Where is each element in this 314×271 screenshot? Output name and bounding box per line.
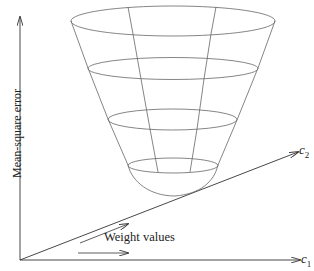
c1-axis-label: c1 [301, 251, 311, 269]
y-axis-label: Mean-square error [10, 79, 25, 189]
c2-subscript: 2 [305, 150, 310, 160]
c1-subscript: 1 [307, 259, 312, 269]
bowl-left-edge [71, 21, 175, 196]
weight-values-label: Weight values [104, 230, 175, 245]
meridian-left [128, 7, 158, 172]
contour-4 [128, 158, 218, 173]
contour-1 [71, 6, 275, 36]
error-bowl [71, 6, 275, 196]
axes [20, 17, 300, 260]
contour-3 [108, 109, 237, 130]
meridian-right [190, 7, 216, 172]
c2-axis-label: c2 [299, 142, 309, 160]
contour-2 [88, 58, 258, 80]
